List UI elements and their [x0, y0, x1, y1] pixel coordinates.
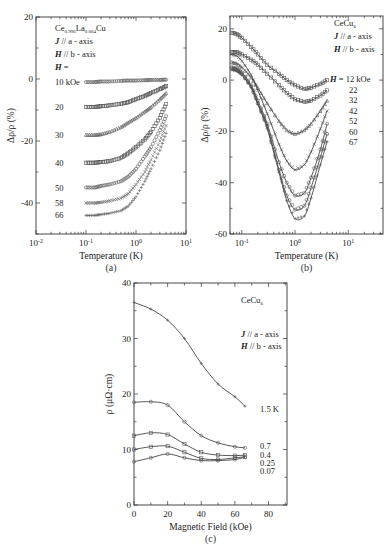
data-point [117, 210, 120, 213]
data-point [300, 130, 303, 133]
series-label: 52 [349, 116, 358, 126]
data-point [297, 216, 300, 219]
compound-label: CeCu6 [334, 18, 356, 29]
series-66-kOe: 66 [55, 132, 168, 221]
x-tick-label: 80 [264, 509, 274, 519]
figure: 200-20-4010-210-1100101Temperature (K)Δρ… [0, 0, 392, 560]
data-point [156, 143, 159, 146]
y-tick-label: 10 [122, 445, 132, 455]
data-point [165, 115, 168, 118]
series-10-kOe: 10 kOe [55, 77, 168, 87]
y-tick-label: 40 [122, 278, 132, 288]
data-point [297, 193, 300, 196]
series-0.07-K: 0.07 [132, 452, 274, 476]
x-tick-label: 60 [230, 509, 240, 519]
data-point [86, 201, 89, 204]
data-point [131, 199, 134, 202]
data-point [155, 147, 158, 150]
data-point [163, 127, 166, 130]
data-point [110, 182, 113, 185]
field-direction-label: H // b - axis [54, 49, 96, 59]
data-point [88, 201, 91, 204]
series-label: 40 [55, 158, 64, 168]
series-30-kOe: 30 [55, 91, 168, 139]
y-tick-label: -60 [215, 229, 227, 239]
series-label: 10 kOe [55, 77, 80, 87]
field-header: H = [54, 62, 69, 72]
data-point [117, 197, 120, 200]
chart-b: 200-20-40-6010-1100101Temperature (K)Δρ/… [200, 16, 383, 274]
data-point [161, 133, 164, 136]
data-point [319, 163, 322, 166]
x-tick-label: 20 [163, 509, 173, 519]
series-label: 42 [349, 106, 358, 116]
current-direction-label: J // a - axis [333, 31, 372, 41]
series-label: 22 [349, 85, 358, 95]
x-tick-label: 100 [289, 238, 301, 249]
series-58-kOe: 58 [55, 124, 168, 208]
data-point [162, 130, 165, 133]
data-point [158, 149, 161, 152]
data-point [130, 201, 133, 204]
series-label: 50 [55, 183, 64, 193]
data-point [300, 192, 303, 195]
y-axis-title: Δρ/ρ (%) [200, 108, 211, 143]
figure-caption: (c) [205, 533, 216, 545]
data-point [151, 142, 154, 145]
series-42-kOe: 42 [230, 53, 357, 172]
data-point [155, 156, 158, 159]
chart-a: 200-20-4010-210-1100101Temperature (K)Δρ… [6, 12, 192, 274]
data-point [108, 212, 111, 215]
x-axis-title: Magnetic Field (kOe) [169, 522, 251, 533]
x-tick-label: 101 [342, 238, 354, 249]
data-point [300, 205, 303, 208]
data-point [158, 139, 161, 142]
data-point [141, 183, 144, 186]
data-point [134, 195, 137, 198]
series-label: 58 [55, 198, 64, 208]
data-point [90, 201, 93, 204]
figure-caption: (b) [301, 262, 313, 274]
data-point [115, 198, 118, 201]
series-1.5-K: 1.5 K [132, 301, 279, 414]
series-label: 30 [55, 130, 64, 140]
data-point [138, 189, 141, 192]
series-label: 1.5 K [260, 404, 280, 414]
y-tick-label: -40 [215, 178, 227, 188]
data-point [155, 135, 158, 138]
data-point [303, 163, 306, 166]
y-tick-label: 20 [122, 389, 132, 399]
compound-label: Ce0.996La0.004Cu [55, 23, 107, 34]
data-point [160, 136, 163, 139]
data-point [165, 124, 168, 127]
series-0.7-K: 0.7 [132, 400, 270, 451]
data-point [113, 198, 116, 201]
x-tick-label: 100 [130, 238, 142, 249]
data-point [309, 196, 312, 199]
current-direction-label: J // a - axis [240, 329, 279, 339]
series-line [232, 69, 327, 211]
data-point [113, 182, 116, 185]
data-point [297, 207, 300, 210]
x-tick-label: 10-2 [29, 238, 43, 249]
data-point [165, 132, 168, 135]
series-0.25-K: 0.25 [132, 445, 274, 468]
y-tick-label: -40 [21, 198, 33, 208]
series-line [134, 402, 245, 448]
field-direction-label: H // b - axis [240, 341, 282, 351]
data-point [151, 154, 154, 157]
series-40-kOe: 40 [55, 102, 168, 168]
series-label: 66 [55, 210, 64, 220]
data-point [153, 139, 156, 142]
compound-label: CeCu6 [241, 295, 263, 306]
data-point [133, 197, 136, 200]
series-50-kOe: 50 [55, 115, 168, 193]
series-line [134, 302, 245, 406]
figure-caption: (a) [105, 262, 116, 274]
series-67-kOe: 67 [230, 68, 357, 220]
data-point [110, 199, 113, 202]
data-point [115, 181, 118, 184]
current-direction-label: J // a - axis [54, 36, 93, 46]
data-point [84, 201, 87, 204]
y-tick-label: 30 [122, 334, 132, 344]
